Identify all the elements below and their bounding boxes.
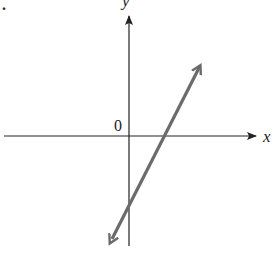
origin-label: 0 <box>114 117 122 134</box>
y-axis-label: y <box>120 0 130 10</box>
coordinate-plane-figure: . x y 0 <box>0 0 278 253</box>
bullet-mark: . <box>2 0 6 13</box>
x-axis-label: x <box>262 127 271 146</box>
plotted-line <box>112 66 200 239</box>
